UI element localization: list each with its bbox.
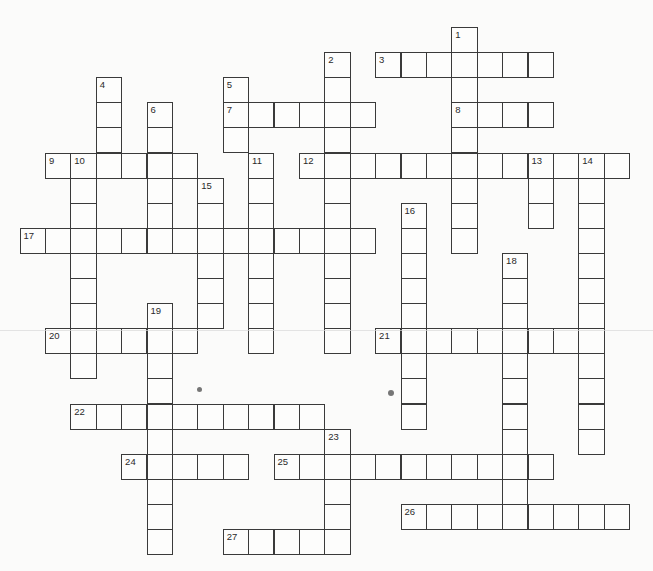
crossword-cell[interactable] bbox=[578, 353, 604, 379]
crossword-cell[interactable] bbox=[248, 102, 274, 128]
crossword-cell[interactable] bbox=[401, 454, 427, 480]
crossword-cell[interactable] bbox=[324, 303, 350, 329]
crossword-cell[interactable] bbox=[528, 328, 554, 354]
crossword-cell[interactable] bbox=[324, 77, 350, 103]
crossword-cell[interactable] bbox=[578, 404, 604, 430]
crossword-cell[interactable] bbox=[324, 153, 350, 179]
crossword-cell[interactable] bbox=[477, 153, 503, 179]
crossword-cell[interactable] bbox=[578, 253, 604, 279]
crossword-cell[interactable] bbox=[197, 454, 223, 480]
crossword-cell[interactable] bbox=[172, 328, 198, 354]
crossword-cell[interactable] bbox=[477, 454, 503, 480]
crossword-cell[interactable] bbox=[96, 328, 122, 354]
crossword-cell[interactable] bbox=[248, 178, 274, 204]
crossword-cell[interactable]: 24 bbox=[121, 454, 147, 480]
crossword-cell[interactable] bbox=[401, 153, 427, 179]
crossword-cell[interactable] bbox=[172, 228, 198, 254]
crossword-cell[interactable] bbox=[248, 278, 274, 304]
crossword-cell[interactable] bbox=[451, 228, 477, 254]
crossword-cell[interactable] bbox=[147, 429, 173, 455]
crossword-cell[interactable] bbox=[578, 328, 604, 354]
crossword-cell[interactable] bbox=[147, 504, 173, 530]
crossword-cell[interactable] bbox=[147, 404, 173, 430]
crossword-cell[interactable]: 13 bbox=[528, 153, 554, 179]
crossword-cell[interactable] bbox=[502, 102, 528, 128]
crossword-cell[interactable] bbox=[248, 253, 274, 279]
crossword-cell[interactable]: 8 bbox=[451, 102, 477, 128]
crossword-cell[interactable] bbox=[578, 228, 604, 254]
crossword-cell[interactable] bbox=[528, 203, 554, 229]
crossword-cell[interactable] bbox=[96, 127, 122, 153]
crossword-cell[interactable] bbox=[197, 278, 223, 304]
crossword-cell[interactable]: 12 bbox=[299, 153, 325, 179]
crossword-cell[interactable] bbox=[477, 328, 503, 354]
crossword-cell[interactable]: 6 bbox=[147, 102, 173, 128]
crossword-cell[interactable] bbox=[324, 253, 350, 279]
crossword-cell[interactable]: 20 bbox=[45, 328, 71, 354]
crossword-cell[interactable] bbox=[324, 529, 350, 555]
crossword-cell[interactable] bbox=[299, 529, 325, 555]
crossword-cell[interactable] bbox=[451, 454, 477, 480]
crossword-cell[interactable] bbox=[274, 529, 300, 555]
crossword-cell[interactable] bbox=[401, 404, 427, 430]
crossword-cell[interactable] bbox=[248, 203, 274, 229]
crossword-cell[interactable] bbox=[578, 203, 604, 229]
crossword-cell[interactable] bbox=[324, 178, 350, 204]
crossword-cell[interactable] bbox=[401, 52, 427, 78]
crossword-cell[interactable] bbox=[553, 504, 579, 530]
crossword-cell[interactable] bbox=[70, 328, 96, 354]
crossword-cell[interactable]: 5 bbox=[223, 77, 249, 103]
crossword-cell[interactable] bbox=[350, 153, 376, 179]
crossword-cell[interactable] bbox=[147, 228, 173, 254]
crossword-cell[interactable] bbox=[451, 504, 477, 530]
crossword-cell[interactable] bbox=[502, 504, 528, 530]
crossword-cell[interactable] bbox=[147, 353, 173, 379]
crossword-cell[interactable] bbox=[147, 378, 173, 404]
crossword-cell[interactable] bbox=[502, 353, 528, 379]
crossword-cell[interactable] bbox=[451, 77, 477, 103]
crossword-cell[interactable] bbox=[502, 479, 528, 505]
crossword-cell[interactable] bbox=[578, 429, 604, 455]
crossword-cell[interactable] bbox=[502, 303, 528, 329]
crossword-cell[interactable] bbox=[96, 153, 122, 179]
crossword-cell[interactable] bbox=[426, 504, 452, 530]
crossword-cell[interactable] bbox=[70, 303, 96, 329]
crossword-cell[interactable] bbox=[528, 102, 554, 128]
crossword-cell[interactable] bbox=[223, 404, 249, 430]
crossword-cell[interactable] bbox=[578, 303, 604, 329]
crossword-cell[interactable] bbox=[197, 203, 223, 229]
crossword-cell[interactable] bbox=[401, 278, 427, 304]
crossword-cell[interactable] bbox=[172, 404, 198, 430]
crossword-cell[interactable]: 9 bbox=[45, 153, 71, 179]
crossword-cell[interactable] bbox=[375, 454, 401, 480]
crossword-cell[interactable]: 21 bbox=[375, 328, 401, 354]
crossword-cell[interactable] bbox=[502, 328, 528, 354]
crossword-cell[interactable] bbox=[147, 178, 173, 204]
crossword-cell[interactable] bbox=[426, 454, 452, 480]
crossword-cell[interactable] bbox=[528, 504, 554, 530]
crossword-cell[interactable] bbox=[324, 328, 350, 354]
crossword-cell[interactable] bbox=[350, 454, 376, 480]
crossword-cell[interactable] bbox=[121, 228, 147, 254]
crossword-cell[interactable] bbox=[578, 178, 604, 204]
crossword-cell[interactable] bbox=[553, 153, 579, 179]
crossword-cell[interactable] bbox=[299, 228, 325, 254]
crossword-cell[interactable] bbox=[147, 454, 173, 480]
crossword-cell[interactable] bbox=[324, 102, 350, 128]
crossword-cell[interactable] bbox=[147, 127, 173, 153]
crossword-cell[interactable] bbox=[451, 127, 477, 153]
crossword-cell[interactable] bbox=[45, 228, 71, 254]
crossword-cell[interactable] bbox=[223, 127, 249, 153]
crossword-cell[interactable] bbox=[248, 228, 274, 254]
crossword-cell[interactable]: 15 bbox=[197, 178, 223, 204]
crossword-cell[interactable] bbox=[197, 404, 223, 430]
crossword-cell[interactable]: 16 bbox=[401, 203, 427, 229]
crossword-cell[interactable] bbox=[401, 303, 427, 329]
crossword-cell[interactable] bbox=[147, 153, 173, 179]
crossword-cell[interactable] bbox=[121, 404, 147, 430]
crossword-cell[interactable] bbox=[248, 303, 274, 329]
crossword-cell[interactable] bbox=[147, 203, 173, 229]
crossword-cell[interactable] bbox=[451, 52, 477, 78]
crossword-cell[interactable]: 11 bbox=[248, 153, 274, 179]
crossword-cell[interactable] bbox=[197, 253, 223, 279]
